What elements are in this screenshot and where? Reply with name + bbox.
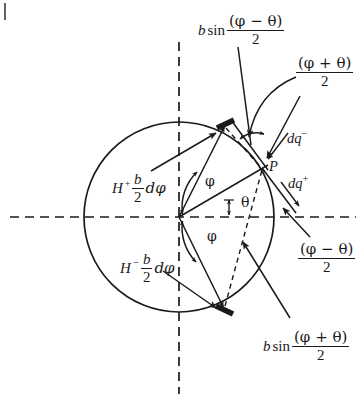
lower-right-numerator: (φ − θ) bbox=[298, 242, 355, 259]
leader-h-plus bbox=[151, 133, 216, 171]
top-numerator: (φ − θ) bbox=[227, 14, 284, 31]
label-angle-phi-lower: φ bbox=[207, 229, 217, 244]
h-minus-denominator: 2 bbox=[141, 269, 153, 285]
leader-lines-group bbox=[151, 47, 310, 318]
label-b-sin-phi-plus-theta: b sin (φ + θ) 2 bbox=[263, 330, 349, 363]
h-minus-differential: dφ bbox=[154, 261, 174, 276]
upper-right-numerator: (φ + θ) bbox=[296, 56, 353, 73]
h-minus-superscript: − bbox=[133, 257, 139, 268]
b-symbol-bottom: b bbox=[263, 339, 271, 354]
h-plus-numerator: b bbox=[132, 172, 144, 189]
h-plus-denominator: 2 bbox=[132, 189, 144, 205]
label-dq-plus: dq+ bbox=[288, 176, 308, 191]
dq-minus-base: dq bbox=[287, 130, 302, 146]
charge-element-dq-minus bbox=[217, 120, 234, 128]
h-minus-symbol: H bbox=[120, 261, 131, 276]
chord-p-upper-solid bbox=[231, 120, 268, 170]
sin-symbol-top: sin bbox=[208, 23, 226, 38]
lower-right-denominator: 2 bbox=[321, 259, 333, 275]
h-plus-symbol: H bbox=[112, 181, 123, 196]
sin-symbol-bottom: sin bbox=[273, 339, 291, 354]
leader-top-expression bbox=[238, 47, 251, 145]
label-h-plus-term: H+ b 2 dφ bbox=[112, 172, 166, 205]
label-phi-plus-theta-over-2: (φ + θ) 2 bbox=[296, 56, 353, 89]
h-minus-numerator: b bbox=[141, 252, 153, 269]
bottom-denominator: 2 bbox=[315, 347, 327, 363]
b-symbol-top: b bbox=[198, 23, 206, 38]
label-dq-minus: dq− bbox=[287, 131, 307, 146]
dq-plus-base: dq bbox=[288, 175, 303, 191]
label-phi-minus-theta-over-2: (φ − θ) 2 bbox=[298, 242, 355, 275]
leader-phi-plus-theta bbox=[249, 77, 296, 137]
label-h-minus-term: H− b 2 dφ bbox=[120, 252, 175, 285]
figure-root: b sin (φ − θ) 2 (φ + θ) 2 dq− P dq+ (φ −… bbox=[0, 0, 364, 402]
label-b-sin-phi-minus-theta: b sin (φ − θ) 2 bbox=[198, 14, 284, 47]
charge-element-dq-plus bbox=[216, 306, 233, 314]
h-plus-differential: dφ bbox=[146, 181, 166, 196]
leader-phi-plus-theta-straight bbox=[267, 96, 300, 158]
bottom-numerator: (φ + θ) bbox=[292, 330, 349, 347]
dq-minus-superscript: − bbox=[302, 128, 308, 139]
leader-phi-minus-theta bbox=[283, 208, 310, 237]
top-denominator: 2 bbox=[250, 31, 262, 47]
chords-group bbox=[225, 120, 296, 306]
label-angle-theta: θ bbox=[241, 195, 249, 210]
upper-right-denominator: 2 bbox=[319, 73, 331, 89]
h-plus-superscript: + bbox=[125, 180, 130, 189]
label-point-p: P bbox=[269, 159, 278, 174]
dq-plus-superscript: + bbox=[303, 173, 309, 184]
label-angle-phi-upper: φ bbox=[205, 174, 215, 189]
